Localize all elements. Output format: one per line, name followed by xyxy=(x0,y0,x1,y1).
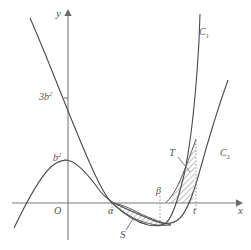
x-tick-beta: β xyxy=(156,186,161,196)
math-figure: y x O 3b2 b2 α β t C1 C2 S T xyxy=(0,0,251,250)
y-tick-3b-squared-exponent: 2 xyxy=(49,90,52,97)
curve-c2-label-text: C xyxy=(220,147,227,158)
figure-canvas xyxy=(0,0,251,250)
y-tick-3b-squared: 3b2 xyxy=(39,92,52,102)
y-axis-label: y xyxy=(56,8,61,19)
region-t-label: T xyxy=(169,147,175,158)
y-tick-3b-squared-text: 3b xyxy=(39,91,49,102)
y-tick-b-squared: b2 xyxy=(53,153,61,163)
curve-c1-label-text: C xyxy=(199,26,206,37)
x-tick-t: t xyxy=(193,206,196,216)
s-label-leader xyxy=(126,219,133,230)
region-s-label: S xyxy=(120,229,126,240)
curve-c1-label: C1 xyxy=(199,27,209,37)
curve-c2-label-subscript: 2 xyxy=(227,153,230,160)
y-tick-b-squared-exponent: 2 xyxy=(58,151,61,158)
x-tick-alpha: α xyxy=(108,206,113,216)
origin-label: O xyxy=(54,206,61,216)
y-axis-arrowhead xyxy=(64,9,71,16)
curve-c2-label: C2 xyxy=(220,148,230,158)
x-axis-label: x xyxy=(238,205,243,216)
curve-c1-label-subscript: 1 xyxy=(206,32,209,39)
